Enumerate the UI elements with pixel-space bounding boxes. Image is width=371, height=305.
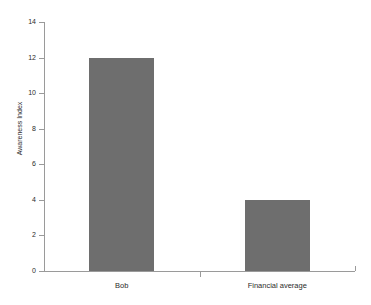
y-tick-label: 2 xyxy=(6,231,36,238)
y-tick-mark xyxy=(39,164,44,165)
y-axis-line xyxy=(44,22,45,272)
y-tick-label: 14 xyxy=(6,18,36,25)
y-tick-label: 10 xyxy=(6,89,36,96)
x-axis-end-tick xyxy=(355,266,356,271)
y-tick-mark xyxy=(39,235,44,236)
y-tick-label: 8 xyxy=(6,125,36,132)
y-tick-label: 6 xyxy=(6,160,36,167)
bar-chart: · · · · · Awareness Index 02468101214 Bo… xyxy=(0,0,371,305)
y-tick-mark xyxy=(39,58,44,59)
y-tick-mark xyxy=(39,22,44,23)
x-tick-mark xyxy=(200,272,201,277)
y-tick-mark xyxy=(39,271,44,272)
y-tick-label: 0 xyxy=(6,267,36,274)
y-tick-mark xyxy=(39,129,44,130)
y-tick-mark xyxy=(39,200,44,201)
y-tick-label: 12 xyxy=(6,54,36,61)
chart-title: · · · · · xyxy=(0,0,371,2)
x-tick-label: Financial average xyxy=(200,282,356,290)
y-tick-mark xyxy=(39,93,44,94)
bar xyxy=(245,200,310,271)
y-tick-label: 4 xyxy=(6,196,36,203)
bar xyxy=(89,58,154,271)
x-tick-label: Bob xyxy=(44,282,200,290)
